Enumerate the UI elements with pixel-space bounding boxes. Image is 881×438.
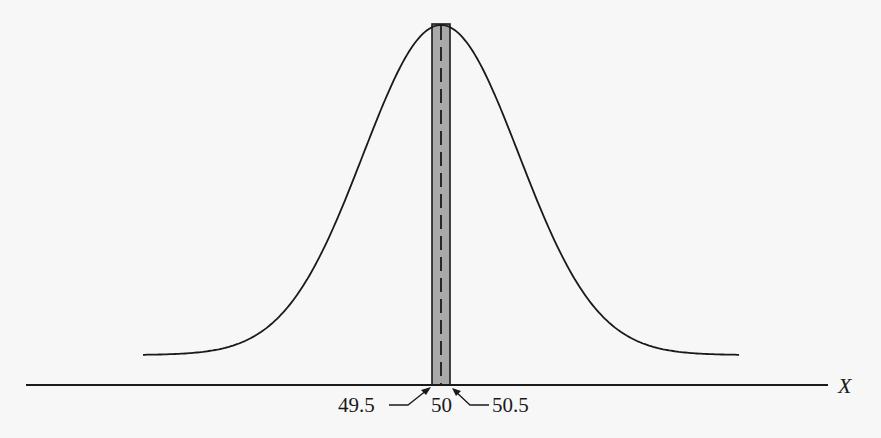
leader-49-5: [389, 390, 427, 405]
leader-50-5: [455, 391, 489, 405]
normal-curve-figure: X 49.5 50 50.5: [0, 0, 881, 438]
label-50: 50: [431, 393, 452, 417]
x-axis-label: X: [837, 373, 853, 398]
label-49-5: 49.5: [338, 393, 375, 417]
label-50-5: 50.5: [492, 393, 529, 417]
